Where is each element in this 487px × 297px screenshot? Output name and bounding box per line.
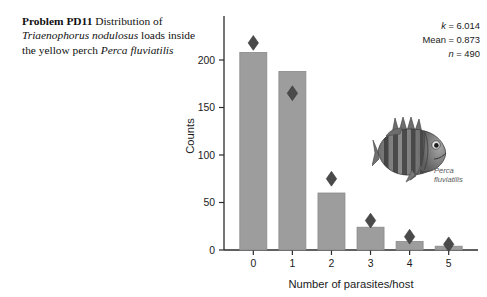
x-axis: 012345	[224, 250, 478, 269]
x-tick-label: 5	[446, 258, 452, 269]
bar	[240, 52, 267, 250]
stat-mean: Mean = 0.873	[352, 33, 480, 47]
perch-species: fluviatilis	[434, 175, 463, 184]
x-tick-label: 1	[289, 258, 295, 269]
perch-photo-label: Perca fluviatilis	[434, 166, 463, 185]
stat-n-value: = 490	[454, 48, 480, 59]
x-tick-label: 3	[368, 258, 374, 269]
y-tick-label: 50	[203, 197, 215, 208]
y-tick-label: 200	[198, 55, 216, 66]
x-axis-title: Number of parasites/host	[289, 278, 415, 290]
stat-k: k = 6.014	[352, 19, 480, 33]
fish-pupil	[434, 143, 439, 148]
fitted-marker-diamond	[326, 171, 336, 186]
fitted-marker-diamond	[365, 213, 375, 228]
statistics-annotation: k = 6.014 Mean = 0.873 n = 490	[352, 19, 480, 62]
species-name-parasite: Triaenophorus nodulosus	[22, 29, 138, 41]
figure-panel: Problem PD11 Distribution of Triaenophor…	[0, 0, 487, 297]
y-tick-label: 100	[198, 150, 216, 161]
caption-text-1: Distribution of	[95, 15, 162, 27]
stat-n: n = 490	[352, 47, 480, 61]
bar	[318, 193, 345, 250]
figure-caption: Problem PD11 Distribution of Triaenophor…	[22, 14, 198, 57]
x-tick-label: 0	[250, 258, 256, 269]
y-axis: 050100150200	[198, 16, 224, 256]
x-tick-label: 2	[329, 258, 335, 269]
x-tick-label: 4	[407, 258, 413, 269]
y-tick-label: 150	[198, 102, 216, 113]
bar	[357, 227, 384, 250]
perch-genus: Perca	[434, 166, 463, 175]
y-axis-title: Counts	[184, 118, 196, 154]
fitted-marker-diamond	[248, 36, 258, 51]
stat-k-value: = 6.014	[446, 20, 480, 31]
species-name-host: Perca fluviatilis	[101, 44, 174, 56]
y-tick-label: 0	[209, 245, 215, 256]
problem-label: Problem PD11	[22, 15, 92, 27]
